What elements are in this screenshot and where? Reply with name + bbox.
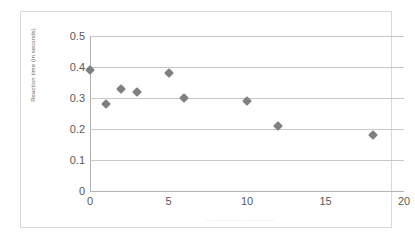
data-point[interactable] xyxy=(164,68,174,78)
y-tick-label: 0.4 xyxy=(45,61,85,73)
x-tick-label: 10 xyxy=(227,195,267,207)
y-tick-label: 0.2 xyxy=(45,123,85,135)
data-point[interactable] xyxy=(179,93,189,103)
gridline xyxy=(90,160,404,161)
y-tick-label: 0.1 xyxy=(45,154,85,166)
data-point[interactable] xyxy=(116,84,126,94)
chart-container: Reaction time (in seconds) 00.10.20.30.4… xyxy=(20,11,392,228)
x-tick-label: 15 xyxy=(306,195,346,207)
gridline xyxy=(90,129,404,130)
y-tick-label: 0.3 xyxy=(45,92,85,104)
gridline xyxy=(90,67,404,68)
data-point[interactable] xyxy=(101,99,111,109)
chart-caption: — – –– – ––– – –– –– – ––– –– xyxy=(90,217,390,223)
data-point[interactable] xyxy=(368,130,378,140)
x-tick-label: 0 xyxy=(70,195,110,207)
x-tick-label: 20 xyxy=(384,195,415,207)
y-tick-label: 0.5 xyxy=(45,30,85,42)
x-tick-label: 5 xyxy=(149,195,189,207)
plot-area xyxy=(90,36,404,191)
gridline xyxy=(90,191,404,192)
y-axis-tick-labels: 00.10.20.30.40.5 xyxy=(39,36,85,191)
x-axis-tick-labels: 05101520 xyxy=(90,195,404,211)
gridline xyxy=(90,36,404,37)
data-point[interactable] xyxy=(132,87,142,97)
y-axis-title: Reaction time (in seconds) xyxy=(30,5,36,125)
